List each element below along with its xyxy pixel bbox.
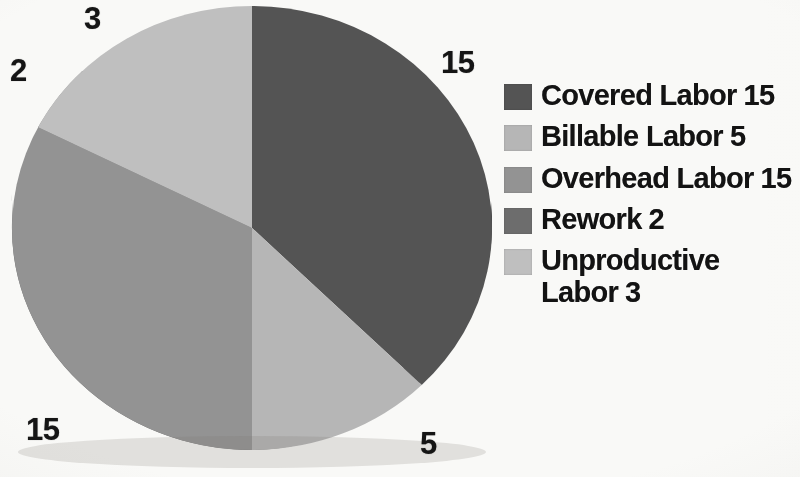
pie-data-label-rework: 2 bbox=[10, 55, 27, 86]
legend-label-unproductive-labor: Unproductive Labor3 bbox=[541, 245, 720, 308]
legend-label-value: 15 bbox=[761, 162, 792, 194]
legend-label-text: Billable Labor bbox=[541, 120, 723, 152]
pie-data-label-unproductive-labor: 3 bbox=[84, 3, 101, 34]
legend-item-covered-labor: Covered Labor15 bbox=[504, 80, 800, 111]
legend-label-text: Overhead Labor bbox=[541, 162, 754, 194]
legend-label-text: Covered Labor bbox=[541, 79, 737, 111]
pie-chart-region: 15 3 2 15 5 bbox=[0, 0, 500, 477]
legend-label-value: 2 bbox=[649, 203, 664, 235]
legend-label-value: 5 bbox=[730, 120, 745, 152]
pie-top-faces bbox=[12, 6, 492, 450]
legend-label-overhead-labor: Overhead Labor15 bbox=[541, 163, 791, 194]
legend-label-value: 3 bbox=[625, 276, 640, 308]
pie-chart-graphic bbox=[0, 0, 500, 477]
legend-swatch-billable-labor bbox=[504, 125, 532, 151]
legend-item-unproductive-labor: Unproductive Labor3 bbox=[504, 245, 800, 308]
legend-swatch-covered-labor bbox=[504, 84, 532, 110]
legend-label-text: Rework bbox=[541, 203, 642, 235]
legend-swatch-overhead-labor bbox=[504, 167, 532, 193]
pie-data-label-overhead-labor: 15 bbox=[26, 414, 59, 445]
legend-item-rework: Rework2 bbox=[504, 204, 800, 235]
legend-label-value: 15 bbox=[744, 79, 775, 111]
pie-drop-shadow bbox=[18, 436, 486, 468]
legend-swatch-rework bbox=[504, 208, 532, 234]
chart-legend: Covered Labor15 Billable Labor5 Overhead… bbox=[504, 80, 800, 318]
legend-label-billable-labor: Billable Labor5 bbox=[541, 121, 745, 152]
legend-item-overhead-labor: Overhead Labor15 bbox=[504, 163, 800, 194]
legend-label-rework: Rework2 bbox=[541, 204, 664, 235]
pie-data-label-billable-labor: 5 bbox=[420, 428, 437, 459]
legend-label-covered-labor: Covered Labor15 bbox=[541, 80, 774, 111]
pie-data-label-covered-labor: 15 bbox=[441, 47, 474, 78]
legend-swatch-unproductive-labor bbox=[504, 249, 532, 275]
legend-item-billable-labor: Billable Labor5 bbox=[504, 121, 800, 152]
